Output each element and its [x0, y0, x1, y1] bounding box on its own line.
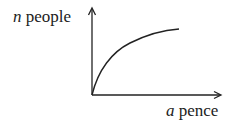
x-axis [92, 92, 221, 99]
y-axis [89, 8, 96, 95]
graph: n people a pence [0, 0, 238, 130]
curve [92, 29, 179, 95]
x-axis-label: a pence [166, 101, 218, 120]
y-axis-label: n people [13, 7, 71, 26]
